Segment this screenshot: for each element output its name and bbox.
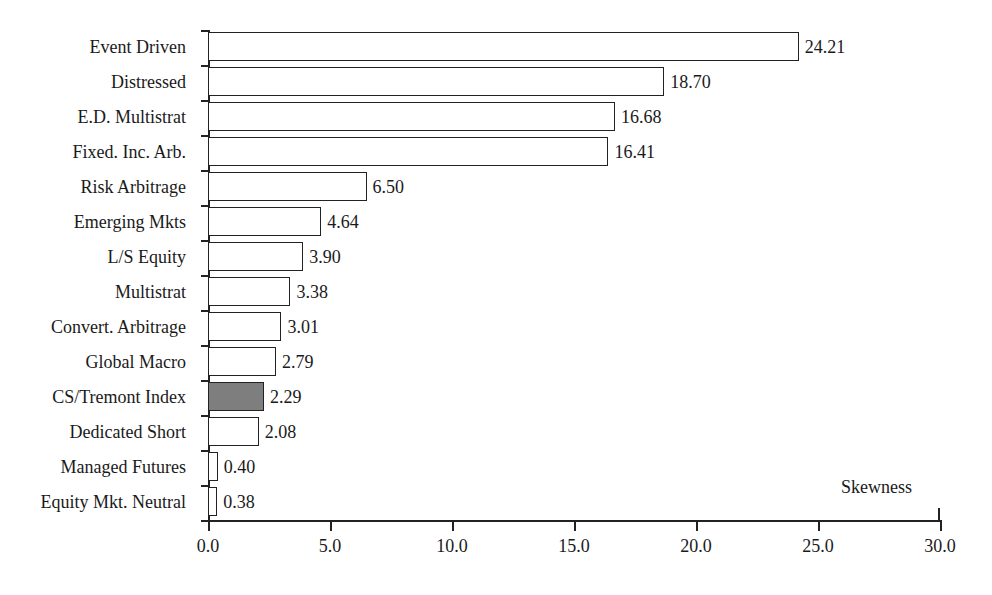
bar-value-label: 2.29 [264,380,302,415]
category-label: Managed Futures [0,450,196,485]
bar-row[interactable]: 18.70 [208,65,940,100]
bar-row[interactable]: 16.68 [208,100,940,135]
category-tick [201,415,208,417]
bar[interactable] [208,137,608,166]
category-tick [201,100,208,102]
category-label: Equity Mkt. Neutral [0,485,196,520]
category-tick [201,170,208,172]
bar-row[interactable]: 0.38 [208,485,940,520]
bar[interactable] [208,277,290,306]
bar-value-label: 3.90 [303,240,341,275]
category-label: Emerging Mkts [0,205,196,240]
value-tick-label: 30.0 [900,536,980,557]
bar[interactable] [208,417,259,446]
bar-value-label: 3.38 [290,275,328,310]
bar-value-label: 16.68 [615,100,662,135]
bar-row[interactable]: 24.21 [208,30,940,65]
bar-value-label: 24.21 [799,30,846,65]
plot-area: 24.2118.7016.6816.416.504.643.903.383.01… [208,30,940,522]
value-tick [940,520,942,531]
bar-row[interactable]: 2.29 [208,380,940,415]
bar[interactable] [208,67,664,96]
bar[interactable] [208,32,799,61]
category-tick [201,310,208,312]
bar-value-label: 16.41 [608,135,655,170]
bar[interactable] [208,382,264,411]
value-tick [574,520,576,531]
category-label: Fixed. Inc. Arb. [0,135,196,170]
category-label: Event Driven [0,30,196,65]
bar-value-label: 0.40 [218,450,256,485]
axis-title-skewness: Skewness [841,477,912,498]
bar[interactable] [208,312,281,341]
bar[interactable] [208,207,321,236]
category-axis-labels: Event DrivenDistressedE.D. MultistratFix… [0,30,196,520]
bar[interactable] [208,452,218,481]
category-tick [201,240,208,242]
category-label: Multistrat [0,275,196,310]
value-tick-label: 10.0 [412,536,492,557]
value-tick [452,520,454,531]
value-tick [330,520,332,531]
bar[interactable] [208,487,217,516]
category-label: Global Macro [0,345,196,380]
bar-value-label: 4.64 [321,205,359,240]
value-tick [696,520,698,531]
value-tick-label: 20.0 [656,536,736,557]
category-tick [201,205,208,207]
category-tick [201,275,208,277]
category-label: Distressed [0,65,196,100]
skewness-bar-chart: Event DrivenDistressedE.D. MultistratFix… [0,0,992,595]
category-tick [201,135,208,137]
bar-value-label: 2.08 [259,415,297,450]
value-tick-label: 15.0 [534,536,614,557]
bar-row[interactable]: 3.01 [208,310,940,345]
category-tick [201,520,208,522]
category-label: Risk Arbitrage [0,170,196,205]
bar-value-label: 2.79 [276,345,314,380]
category-label: L/S Equity [0,240,196,275]
value-tick [818,520,820,531]
bar[interactable] [208,102,615,131]
value-tick [208,520,210,531]
value-tick-label: 25.0 [778,536,858,557]
bar-row[interactable]: 3.90 [208,240,940,275]
category-tick [201,65,208,67]
bar[interactable] [208,172,367,201]
bar[interactable] [208,242,303,271]
bar-row[interactable]: 2.08 [208,415,940,450]
bar-row[interactable]: 3.38 [208,275,940,310]
bar-row[interactable]: 4.64 [208,205,940,240]
bar-row[interactable]: 6.50 [208,170,940,205]
bar-value-label: 0.38 [217,485,255,520]
category-tick [201,345,208,347]
category-label: Dedicated Short [0,415,196,450]
category-label: CS/Tremont Index [0,380,196,415]
bar-row[interactable]: 0.40 [208,450,940,485]
bar-value-label: 3.01 [281,310,319,345]
category-label: E.D. Multistrat [0,100,196,135]
bar-value-label: 18.70 [664,65,711,100]
category-tick [201,30,208,32]
bar-row[interactable]: 16.41 [208,135,940,170]
bar[interactable] [208,347,276,376]
category-tick [201,450,208,452]
value-tick-label: 0.0 [168,536,248,557]
bar-value-label: 6.50 [367,170,405,205]
category-label: Convert. Arbitrage [0,310,196,345]
bar-row[interactable]: 2.79 [208,345,940,380]
value-tick-label: 5.0 [290,536,370,557]
category-tick [201,485,208,487]
category-tick [201,380,208,382]
